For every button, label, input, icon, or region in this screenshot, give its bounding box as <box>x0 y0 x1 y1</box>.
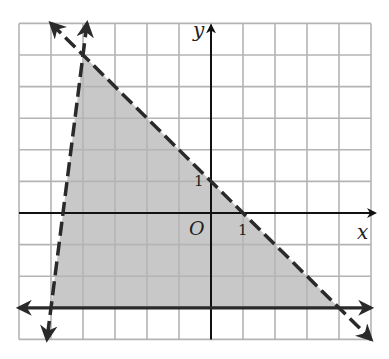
y-tick-label-1: 1 <box>194 172 204 190</box>
y-axis-label: y <box>192 18 205 42</box>
x-axis-label: x <box>357 220 368 244</box>
coordinate-plane: x y O 1 1 <box>0 0 389 359</box>
origin-label: O <box>189 217 205 239</box>
x-tick-label-1: 1 <box>238 221 248 239</box>
